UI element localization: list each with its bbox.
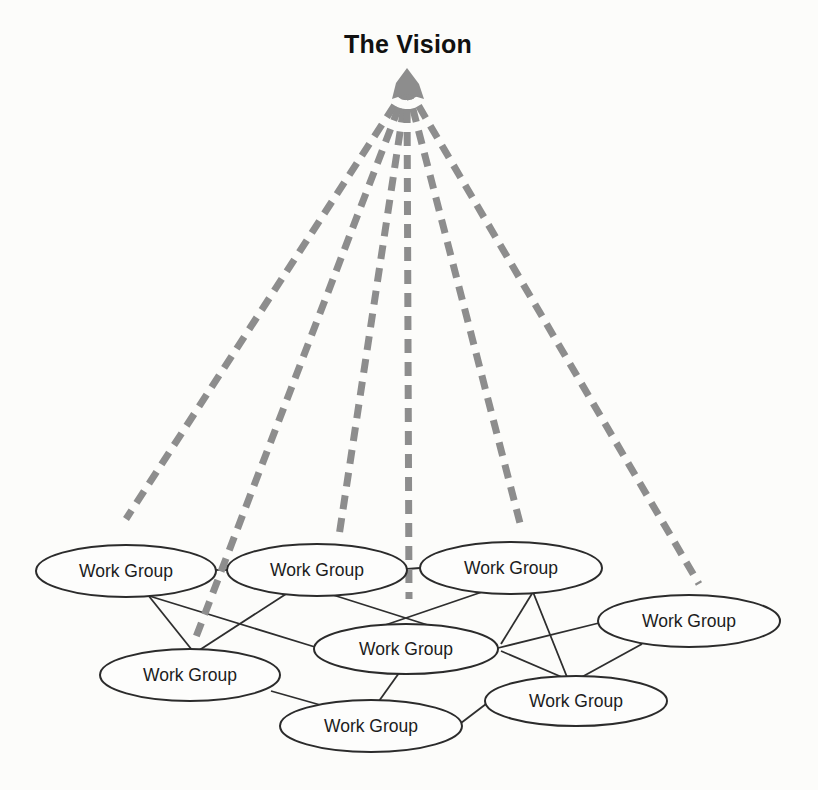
connection-line xyxy=(580,644,642,678)
connection-line xyxy=(461,704,486,723)
work-group-label: Work Group xyxy=(529,691,623,711)
work-group-label: Work Group xyxy=(324,716,418,736)
diagram-canvas: The Vision Work GroupWork GroupWork Grou… xyxy=(0,0,818,790)
work-group-label: Work Group xyxy=(79,561,173,581)
vision-ray-dashed-line xyxy=(407,86,521,527)
work-group-label: Work Group xyxy=(359,639,453,659)
connection-line xyxy=(501,592,533,644)
vision-ray-dashed-line xyxy=(407,86,699,584)
connection-line xyxy=(379,673,399,701)
connection-line xyxy=(407,568,420,569)
vision-workgroups-diagram: Work GroupWork GroupWork GroupWork Group… xyxy=(0,0,818,790)
work-group-label: Work Group xyxy=(464,558,558,578)
connection-line xyxy=(501,651,564,678)
connection-line xyxy=(146,595,315,647)
work-group-label: Work Group xyxy=(143,665,237,685)
vision-ray-dashed-line xyxy=(339,86,407,536)
work-group-label: Work Group xyxy=(270,560,364,580)
connection-line xyxy=(498,623,599,648)
work-group-label: Work Group xyxy=(642,611,736,631)
vision-ray-dashed-line xyxy=(407,86,409,599)
